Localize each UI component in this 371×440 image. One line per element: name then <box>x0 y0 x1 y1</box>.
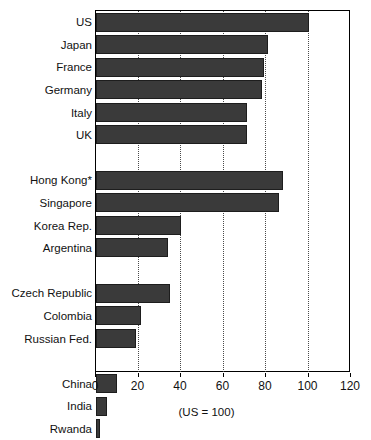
bar <box>96 216 181 235</box>
bar <box>96 13 309 32</box>
x-tick-label: 20 <box>131 379 144 393</box>
bar-row: Singapore <box>0 192 371 215</box>
bar <box>96 306 141 325</box>
x-tick-label: 80 <box>258 379 271 393</box>
category-label: Singapore <box>40 197 92 209</box>
x-tick-label: 40 <box>173 379 186 393</box>
x-tick-mark <box>180 373 181 377</box>
category-label: France <box>56 61 92 73</box>
category-label: Russian Fed. <box>24 333 92 345</box>
x-tick-mark <box>350 373 351 377</box>
bar <box>96 284 170 303</box>
x-tick-label: 120 <box>340 379 360 393</box>
bar <box>96 171 283 190</box>
bar-row: Colombia <box>0 305 371 328</box>
bar <box>96 58 264 77</box>
group-spacer-row <box>0 147 371 170</box>
bar-row: US <box>0 11 371 34</box>
x-tick-label: 0 <box>92 379 99 393</box>
category-label: Hong Kong* <box>30 174 92 186</box>
bar-row: UK <box>0 124 371 147</box>
bar <box>96 374 117 393</box>
category-label: Italy <box>71 107 92 119</box>
bar-row: France <box>0 56 371 79</box>
bar-row: Italy <box>0 101 371 124</box>
x-tick-mark <box>265 373 266 377</box>
category-label: Japan <box>61 39 92 51</box>
bar <box>96 238 168 257</box>
bar <box>96 419 100 438</box>
category-label: US <box>76 16 92 28</box>
category-label: Germany <box>45 84 92 96</box>
x-tick-mark <box>138 373 139 377</box>
bar-row: Hong Kong* <box>0 169 371 192</box>
category-label: China <box>62 378 92 390</box>
bar <box>96 193 279 212</box>
bar-row: Rwanda <box>0 418 371 440</box>
bar-row: Russian Fed. <box>0 327 371 350</box>
category-label: Rwanda <box>50 423 92 435</box>
bar <box>96 35 268 54</box>
bar-row: Korea Rep. <box>0 214 371 237</box>
x-tick-label: 60 <box>216 379 229 393</box>
bar-row: Germany <box>0 79 371 102</box>
bar <box>96 103 247 122</box>
category-label: Korea Rep. <box>34 220 92 232</box>
category-label: Czech Republic <box>11 287 92 299</box>
bar-row: Czech Republic <box>0 282 371 305</box>
bar <box>96 329 136 348</box>
bar-rows: USJapanFranceGermanyItalyUKHong Kong*Sin… <box>0 11 371 440</box>
group-spacer-row <box>0 260 371 283</box>
x-tick-mark <box>95 373 96 377</box>
category-label: Colombia <box>43 310 92 322</box>
x-tick-label: 100 <box>297 379 317 393</box>
x-tick-mark <box>308 373 309 377</box>
bar-row: Argentina <box>0 237 371 260</box>
bar <box>96 80 262 99</box>
category-label: UK <box>76 129 92 141</box>
bar <box>96 125 247 144</box>
x-tick-mark <box>223 373 224 377</box>
bar-row: Japan <box>0 34 371 57</box>
category-label: Argentina <box>43 242 92 254</box>
x-axis-note: (US = 100) <box>0 406 371 418</box>
group-spacer-row <box>0 350 371 373</box>
